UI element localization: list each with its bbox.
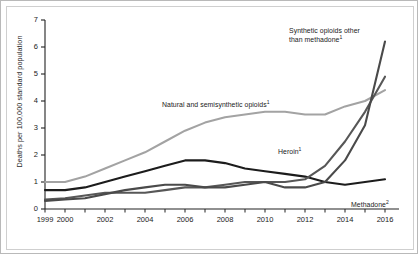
footnote-marker-2: 1 [267, 99, 270, 105]
series-label-synthetic-opioids: Synthetic opioids other than methadone1 [289, 27, 360, 44]
series-label-heroin: Heroin1 [278, 148, 301, 157]
series-label-methadone: Methadone2 [351, 201, 389, 210]
series-label-heroin-text: Heroin [278, 148, 299, 155]
series-label-methadone-text: Methadone [351, 201, 386, 208]
chart-frame: Deaths per 100,000 standard population 0… [0, 0, 418, 254]
series-line-2 [45, 77, 385, 200]
series-label-synthetic-line1: Synthetic opioids other [289, 27, 360, 34]
footnote-marker-1: 1 [340, 33, 343, 39]
series-label-natural-semisynthetic-opioids: Natural and semisynthetic opioids1 [162, 101, 270, 110]
series-label-synthetic-line2: than methadone [289, 36, 340, 43]
series-label-natural-text: Natural and semisynthetic opioids [162, 101, 267, 108]
footnote-marker-4: 2 [386, 199, 389, 205]
series-line-3 [45, 42, 385, 201]
footnote-marker-3: 1 [299, 146, 302, 152]
